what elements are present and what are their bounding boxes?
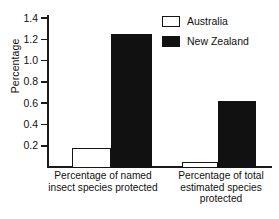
legend: Australia New Zealand xyxy=(162,14,249,54)
legend-swatch-new-zealand-icon xyxy=(162,36,180,47)
y-tick-label-6: 0.2 xyxy=(4,140,38,150)
y-tick-mark xyxy=(41,60,47,62)
legend-label-new-zealand: New Zealand xyxy=(187,36,249,47)
legend-label-australia: Australia xyxy=(187,16,228,27)
bar-australia-cat0 xyxy=(72,148,111,168)
bar-new-zealand-cat0 xyxy=(111,34,152,168)
y-tick-label-3: 0.8 xyxy=(4,76,38,86)
y-tick-label-2: 1.0 xyxy=(4,55,38,65)
y-tick-mark xyxy=(41,17,47,19)
bar-australia-cat1 xyxy=(182,162,218,168)
bar-new-zealand-cat1 xyxy=(218,101,256,168)
y-tick-mark xyxy=(41,145,47,147)
legend-item-new-zealand: New Zealand xyxy=(162,34,249,49)
y-tick-label-0: 1.4 xyxy=(4,13,38,23)
y-axis-line xyxy=(47,15,49,168)
y-tick-mark xyxy=(41,102,47,104)
bar-chart: Percentage 1.41.21.00.80.60.40.2 Austral… xyxy=(0,0,279,219)
y-tick-label-1: 1.2 xyxy=(4,34,38,44)
legend-item-australia: Australia xyxy=(162,14,249,29)
x-axis-category-label-0: Percentage of named insect species prote… xyxy=(42,170,164,193)
legend-swatch-australia-icon xyxy=(162,16,180,27)
y-tick-mark xyxy=(41,81,47,83)
x-axis-category-label-1: Percentage of total estimated species pr… xyxy=(168,170,274,205)
y-tick-label-4: 0.6 xyxy=(4,98,38,108)
y-tick-mark xyxy=(41,124,47,126)
y-tick-mark xyxy=(41,39,47,41)
y-tick-label-5: 0.4 xyxy=(4,119,38,129)
